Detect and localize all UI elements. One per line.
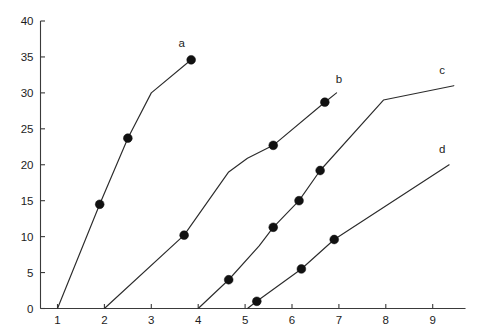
series-lines [58,60,454,309]
x-tick-label-7: 7 [336,314,342,326]
series-line-d [247,165,449,309]
chart-canvas: 0510152025303540123456789 abcd [0,0,491,332]
y-tick-label-5: 5 [27,267,33,279]
marker-d-2 [330,235,339,244]
series-label-d: d [439,143,445,155]
x-tick-label-4: 4 [195,314,202,326]
marker-a-2 [187,55,196,64]
marker-c-3 [316,166,325,175]
marker-a-0 [95,200,104,209]
marker-d-0 [252,297,261,306]
y-tick-label-10: 10 [21,231,34,243]
y-tick-label-40: 40 [21,15,34,27]
x-tick-label-6: 6 [289,314,295,326]
marker-d-1 [297,265,306,274]
y-tick-label-0: 0 [27,303,33,315]
x-tick-label-5: 5 [242,314,248,326]
x-tick-label-2: 2 [101,314,107,326]
series-label-c: c [439,64,445,76]
tick-marks [41,21,433,309]
series-label-b: b [336,73,342,85]
x-tick-label-3: 3 [148,314,154,326]
series-line-c [198,86,454,309]
marker-c-0 [224,275,233,284]
x-tick-label-1: 1 [54,314,60,326]
marker-c-1 [269,223,278,232]
series-line-a [58,60,192,309]
marker-b-1 [269,141,278,150]
data-point-markers [95,55,338,305]
x-tick-label-9: 9 [429,314,435,326]
y-tick-label-30: 30 [21,87,34,99]
marker-a-1 [123,134,132,143]
marker-c-2 [295,196,304,205]
x-tick-label-8: 8 [383,314,389,326]
y-tick-label-35: 35 [21,51,34,63]
y-tick-label-15: 15 [21,195,34,207]
line-chart: 0510152025303540123456789 abcd [0,0,491,332]
y-tick-label-25: 25 [21,123,34,135]
axes [41,21,466,309]
marker-b-0 [180,231,189,240]
series-label-a: a [179,37,186,49]
y-tick-label-20: 20 [21,159,34,171]
marker-b-2 [320,98,329,107]
